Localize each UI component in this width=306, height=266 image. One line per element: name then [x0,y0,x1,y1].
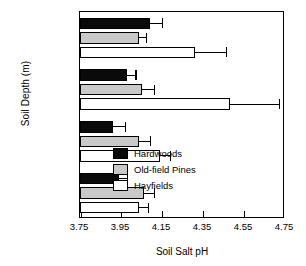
bar-hardwoods-0-0.3 [80,18,150,30]
legend-label-hayfields: Hayfields [134,180,173,191]
y-axis-title: Soil Depth (m) [20,39,31,149]
error-bar-line-hardwoods-0-0.3 [150,23,162,24]
error-bar-cap-pines-0-0.3 [146,33,147,43]
error-bar-line-pines-0.3-0.55 [142,89,154,90]
legend: Hardwoods Old-field Pines Hayfields [113,148,196,191]
x-tick-4.55 [244,211,245,217]
error-bar-cap-hayfields-0-0.3 [226,47,227,57]
legend-item-old-field-pines: Old-field Pines [113,164,196,175]
error-bar-line-pines-0.875-1.1 [144,193,154,194]
error-bar-line-hardwoods-0.55-0.875 [113,126,125,127]
legend-item-hardwoods: Hardwoods [113,148,196,159]
legend-swatch-hardwoods [113,148,128,159]
error-bar-cap-pines-0.55-0.875 [150,136,151,146]
legend-swatch-old-field-pines [113,164,128,175]
error-bar-line-hayfields-0.3-0.55 [230,104,279,105]
x-tick-4.75 [283,211,284,217]
legend-label-hardwoods: Hardwoods [134,148,182,159]
x-tick-label-4.75: 4.75 [264,221,304,232]
figure: Soil Depth (m) Soil Salt pH 0-0.30.3-0.5… [0,0,306,266]
x-tick-label-3.75: 3.75 [59,221,99,232]
bar-hardwoods-0.3-0.55 [80,69,127,81]
bar-pines-0-0.3 [80,32,139,44]
error-bar-line-hardwoods-0.3-0.55 [127,75,135,76]
bar-pines-0.55-0.875 [80,136,139,148]
error-bar-cap-pines-0.3-0.55 [154,85,155,95]
legend-item-hayfields: Hayfields [113,180,196,191]
x-tick-4.15 [162,211,163,217]
error-bar-cap-hayfields-0.875-1.1 [148,203,149,213]
bar-hardwoods-0.55-0.875 [80,121,113,133]
bar-hayfields-0.3-0.55 [80,98,230,110]
x-tick-label-4.35: 4.35 [182,221,222,232]
error-bar-cap-hardwoods-0-0.3 [162,18,163,28]
x-tick-4.35 [203,211,204,217]
error-bar-cap-hardwoods-0.55-0.875 [125,122,126,132]
x-tick-label-3.95: 3.95 [100,221,140,232]
error-bar-line-hayfields-0.875-1.1 [139,207,147,208]
error-bar-line-hayfields-0-0.3 [195,52,226,53]
bar-hayfields-0.875-1.1 [80,202,139,214]
error-bar-cap-hardwoods-0.3-0.55 [135,70,136,80]
x-axis-title: Soil Salt pH [79,246,285,257]
error-bar-cap-hayfields-0.3-0.55 [279,99,280,109]
legend-swatch-hayfields [113,180,128,191]
bar-hayfields-0-0.3 [80,47,195,59]
x-tick-label-4.15: 4.15 [141,221,181,232]
bar-pines-0.3-0.55 [80,84,142,96]
error-bar-line-pines-0.55-0.875 [139,141,149,142]
x-tick-label-4.55: 4.55 [223,221,263,232]
legend-label-old-field-pines: Old-field Pines [134,164,196,175]
